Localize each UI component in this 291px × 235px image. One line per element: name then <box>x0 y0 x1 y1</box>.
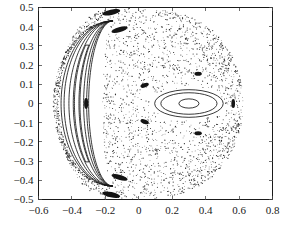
chaos-point <box>189 126 190 127</box>
chaos-point <box>213 169 214 170</box>
chaos-point <box>165 134 166 135</box>
chaos-point <box>181 36 182 37</box>
chaos-point <box>199 60 200 61</box>
chaos-point <box>136 38 137 39</box>
chaos-point <box>160 191 161 192</box>
chaos-point <box>106 89 107 90</box>
chaos-point <box>184 34 185 35</box>
chaos-point <box>219 63 220 64</box>
chaos-point <box>192 151 193 152</box>
chaos-point <box>155 29 156 30</box>
chaos-point <box>219 90 220 91</box>
chaos-point <box>146 135 147 136</box>
chaos-point <box>196 158 197 159</box>
chaos-point <box>158 42 159 43</box>
chaos-point <box>233 141 234 142</box>
chaos-point <box>135 135 136 136</box>
chaos-point <box>186 59 187 60</box>
chaos-point <box>153 60 154 61</box>
chaos-point <box>177 83 178 84</box>
chaos-point <box>133 131 134 132</box>
chaos-point <box>114 78 115 79</box>
chaos-point <box>191 78 192 79</box>
chaos-point <box>143 186 144 187</box>
chaos-point <box>133 64 134 65</box>
chaos-point <box>148 42 149 43</box>
chaos-point <box>135 121 136 122</box>
chaos-point <box>77 29 78 30</box>
chaos-point <box>85 181 86 182</box>
chaos-point <box>148 69 149 70</box>
chaos-point <box>120 121 121 122</box>
chaos-point <box>110 60 111 61</box>
chaos-point <box>228 57 229 58</box>
chaos-point <box>181 174 182 175</box>
chaos-point <box>242 116 243 117</box>
chaos-point <box>174 17 175 18</box>
chaos-point <box>167 36 168 37</box>
chaos-point <box>93 188 94 189</box>
chaos-point <box>174 65 175 66</box>
chaos-point <box>121 192 122 193</box>
chaos-point <box>123 100 124 101</box>
chaos-point <box>236 73 237 74</box>
chaos-point <box>182 188 183 189</box>
chaos-point <box>156 158 157 159</box>
y-tick-label: 0.3 <box>20 40 34 52</box>
chaos-point <box>142 69 143 70</box>
chaos-point <box>238 132 239 133</box>
chaos-point <box>160 166 161 167</box>
chaos-point <box>112 81 113 82</box>
chaos-point <box>237 120 238 121</box>
chaos-point <box>178 145 179 146</box>
chaos-point <box>173 18 174 19</box>
chaos-point <box>227 70 228 71</box>
chaos-point <box>173 168 174 169</box>
chaos-point <box>118 60 119 61</box>
chaos-point <box>198 174 199 175</box>
chaos-point <box>136 175 137 176</box>
chaos-point <box>205 149 206 150</box>
chaos-point <box>240 123 241 124</box>
chaos-point <box>186 83 187 84</box>
chaos-point <box>192 31 193 32</box>
chaos-point <box>184 186 185 187</box>
chaos-point <box>155 15 156 16</box>
chaos-point <box>74 163 75 164</box>
chaos-point <box>199 49 200 50</box>
chaos-point <box>198 80 199 81</box>
chaos-point <box>107 45 108 46</box>
chaos-point <box>95 17 96 18</box>
chaos-point <box>157 149 158 150</box>
chaos-point <box>172 12 173 13</box>
chaos-point <box>228 101 229 102</box>
chaos-point <box>202 87 203 88</box>
chaos-point <box>206 56 207 57</box>
chaos-point <box>170 28 171 29</box>
chaos-point <box>165 11 166 12</box>
chaos-point <box>120 54 121 55</box>
chaos-point <box>122 170 123 171</box>
chaos-point <box>96 187 97 188</box>
chaos-point <box>233 74 234 75</box>
chaos-point <box>146 190 147 191</box>
chaos-point <box>127 45 128 46</box>
chaos-point <box>63 62 64 63</box>
chaos-point <box>212 73 213 74</box>
chaos-point <box>71 45 72 46</box>
chaos-point <box>108 123 109 124</box>
chaos-point <box>191 72 192 73</box>
chaos-point <box>185 43 186 44</box>
chaos-point <box>113 131 114 132</box>
chaos-point <box>61 75 62 76</box>
chaos-point <box>115 179 116 180</box>
chaos-point <box>71 162 72 163</box>
chaos-point <box>84 28 85 29</box>
chaos-point <box>76 41 77 42</box>
chaos-point <box>168 24 169 25</box>
chaos-point <box>229 132 230 133</box>
chaos-point <box>232 82 233 83</box>
chaos-point <box>233 147 234 148</box>
chaos-point <box>160 146 161 147</box>
chaos-point <box>165 143 166 144</box>
